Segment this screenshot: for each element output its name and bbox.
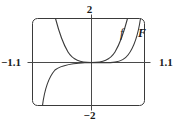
curve-label-F: F (138, 27, 146, 39)
graph-figure (0, 0, 177, 127)
axis-label-right: 1.1 (159, 57, 173, 68)
axis-label-bottom: −2 (0, 110, 177, 121)
curve-label-f: f (120, 27, 123, 39)
axis-label-top: 2 (0, 4, 177, 15)
axis-label-left: −1.1 (1, 57, 21, 68)
